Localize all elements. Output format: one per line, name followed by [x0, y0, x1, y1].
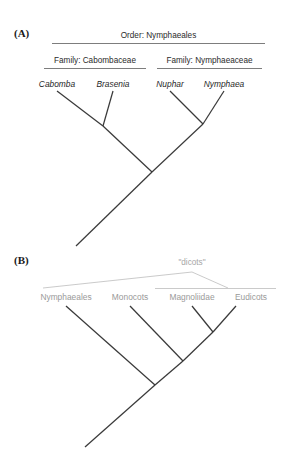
branch-angiosperm-root-stem [85, 385, 155, 447]
branch-eudicots [213, 306, 236, 332]
branch-dicots-node [183, 332, 213, 361]
figure-canvas: (A) Order: Nymphaeales Family: Cabombace… [0, 0, 283, 457]
branch-nymphaea [203, 91, 224, 124]
panel-a-tree [57, 91, 224, 246]
branch-cabombaceae [103, 126, 152, 172]
branch-monocots [130, 306, 183, 361]
branch-nymphaeales-root-stem [76, 172, 152, 246]
branch-nuphar [170, 91, 203, 124]
bracket-right-arm [192, 272, 228, 288]
cladogram-vector-layer [0, 0, 283, 457]
panel-b-tree [66, 306, 236, 447]
bracket-left-arm [43, 272, 192, 288]
branch-cabomba [57, 91, 103, 126]
branch-brasenia [103, 91, 113, 126]
dicots-bracket [43, 272, 276, 289]
branch-monocots-node [155, 361, 183, 385]
branch-nymphaeaceae [152, 124, 203, 172]
branch-magnoliidae [192, 306, 213, 332]
